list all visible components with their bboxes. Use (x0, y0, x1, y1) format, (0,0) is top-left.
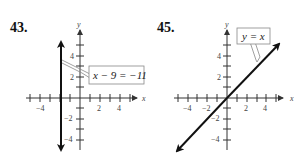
svg-text:2: 2 (70, 73, 74, 82)
svg-text:−4: −4 (36, 104, 45, 113)
svg-text:−4: −4 (64, 135, 73, 144)
svg-text:2: 2 (244, 104, 248, 113)
svg-text:4: 4 (117, 104, 121, 113)
graphs: x y −4 2 4 4 2 −2 −4 (0, 0, 298, 163)
svg-text:4: 4 (70, 52, 74, 61)
equation-label-45: y = x (241, 30, 265, 42)
svg-text:−2: −2 (64, 114, 73, 123)
svg-text:−4: −4 (211, 135, 220, 144)
svg-text:−2: −2 (211, 114, 220, 123)
x-axis-label: x (141, 94, 146, 103)
svg-text:4: 4 (217, 52, 221, 61)
y-axis-label: y (76, 20, 81, 29)
graph-45: x y −4 −2 2 4 4 2 −2 −4 y = x (174, 20, 294, 151)
svg-text:−4: −4 (183, 104, 192, 113)
svg-text:2: 2 (217, 73, 221, 82)
svg-text:y: y (224, 20, 229, 29)
svg-text:2: 2 (97, 104, 101, 113)
svg-text:4: 4 (263, 104, 267, 113)
svg-text:x: x (289, 94, 294, 103)
graph-43: x y −4 2 4 4 2 −2 −4 (26, 20, 147, 150)
equation-label-43: x − 9 = −11 (92, 69, 147, 81)
svg-text:−2: −2 (202, 104, 211, 113)
